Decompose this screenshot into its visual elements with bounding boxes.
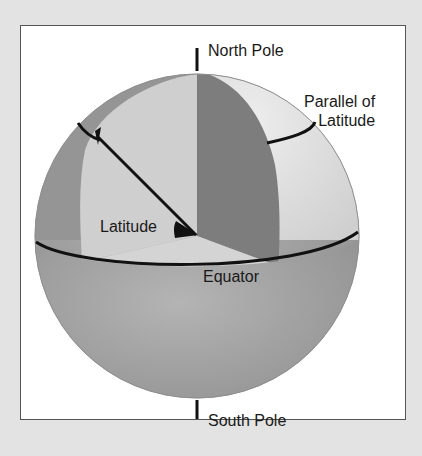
north-pole-label: North Pole — [208, 41, 284, 60]
parallel-of-latitude-label: Parallel of Latitude — [304, 92, 375, 130]
south-pole-label: South Pole — [208, 411, 286, 430]
parallel-label-line2: Latitude — [304, 111, 375, 130]
equator-label: Equator — [203, 267, 259, 286]
parallel-label-line1: Parallel of — [304, 92, 375, 111]
latitude-label: Latitude — [100, 217, 157, 236]
globe-diagram — [0, 0, 422, 456]
